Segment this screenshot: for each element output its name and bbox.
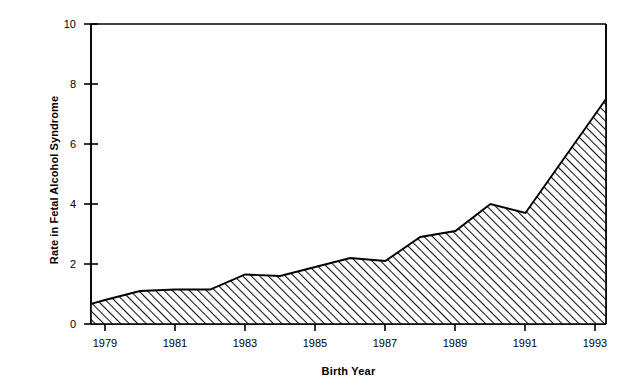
plot-area [0,0,638,389]
chart-figure: Rate in Fetal Alcohol Syndrome 10 8 6 4 … [0,0,638,389]
